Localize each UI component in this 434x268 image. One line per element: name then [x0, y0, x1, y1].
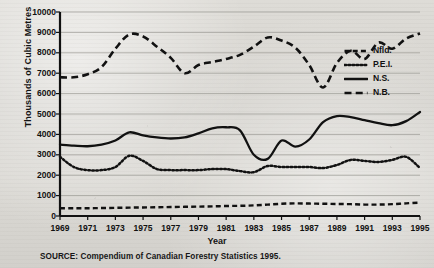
x-tick-label: 1983	[244, 223, 263, 233]
legend-item-nb[interactable]: N.B.	[344, 86, 430, 99]
x-tick-label: 1981	[217, 223, 236, 233]
legend-swatch-dotted	[344, 60, 368, 70]
legend-label: Nfld.	[373, 46, 392, 55]
x-tick-label: 1975	[134, 223, 153, 233]
x-tick-label: 1991	[355, 223, 374, 233]
x-tick-label: 1985	[272, 223, 291, 233]
legend-item-pei[interactable]: P.E.I.	[344, 58, 430, 71]
x-tick-label: 1987	[300, 223, 319, 233]
source-note: SOURCE: Compendium of Canadian Forestry …	[40, 252, 281, 261]
x-tick-label: 1989	[327, 223, 346, 233]
x-tick-label: 1971	[78, 223, 97, 233]
x-tick-label: 1973	[106, 223, 125, 233]
legend-swatch-longdash	[344, 88, 368, 98]
chart-legend: Nfld.P.E.I.N.S.N.B.	[344, 44, 430, 100]
x-axis-title: Year	[0, 236, 434, 246]
x-tick-label: 1993	[383, 223, 402, 233]
legend-label: N.S.	[373, 74, 389, 83]
legend-label: N.B.	[373, 88, 390, 97]
x-tick-label: 1969	[51, 223, 70, 233]
x-axis-tick-labels: 1969197119731975197719791981198319851987…	[0, 0, 434, 240]
legend-swatch-solid	[344, 74, 368, 84]
x-tick-label: 1995	[411, 223, 430, 233]
x-tick-label: 1977	[161, 223, 180, 233]
y-axis-title: Thousands of Cubic Metres	[23, 0, 33, 147]
legend-item-nfld[interactable]: Nfld.	[344, 44, 430, 57]
legend-swatch-dashed	[344, 46, 368, 56]
figure-page: 0100020003000400050006000700080009000100…	[0, 0, 434, 268]
legend-label: P.E.I.	[373, 60, 392, 69]
x-tick-label: 1979	[189, 223, 208, 233]
legend-item-ns[interactable]: N.S.	[344, 72, 430, 85]
